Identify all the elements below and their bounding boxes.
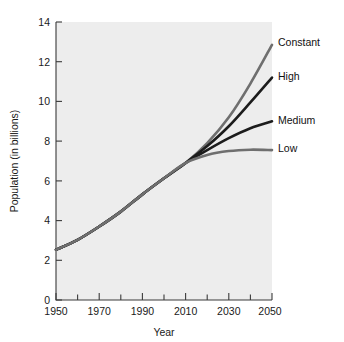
y-tick-label-2: 2 (44, 254, 50, 266)
x-tick-label-2010: 2010 (174, 305, 198, 317)
y-tick-label-8: 8 (44, 135, 50, 147)
population-projection-chart: 0 2 4 6 8 10 12 14 1950 1970 1990 2010 2… (0, 0, 344, 342)
x-tick-label-2050: 2050 (258, 305, 282, 317)
series-label-constant: Constant (278, 36, 320, 48)
x-tick-label-2030: 2030 (217, 305, 241, 317)
x-axis-title: Year (153, 326, 175, 338)
y-tick-label-14: 14 (38, 16, 50, 28)
series-label-low: Low (278, 142, 298, 154)
y-tick-label-10: 10 (38, 95, 50, 107)
y-tick-label-0: 0 (44, 294, 50, 306)
series-label-medium: Medium (278, 114, 316, 126)
x-tick-label-1990: 1990 (131, 305, 155, 317)
x-tick-label-1970: 1970 (88, 305, 112, 317)
y-tick-label-6: 6 (44, 175, 50, 187)
y-tick-label-4: 4 (44, 214, 50, 226)
y-tick-label-12: 12 (38, 56, 50, 68)
x-tick-label-1950: 1950 (44, 305, 68, 317)
chart-canvas: 0 2 4 6 8 10 12 14 1950 1970 1990 2010 2… (0, 0, 344, 342)
plot-area-background (56, 22, 272, 300)
y-axis-title: Population (in billions) (8, 110, 20, 213)
series-label-high: High (278, 70, 300, 82)
